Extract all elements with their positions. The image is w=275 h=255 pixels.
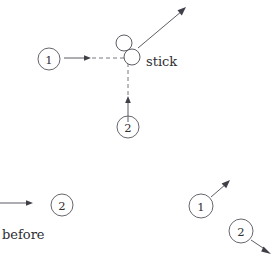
before-ball-two-group: 2 (117, 60, 139, 138)
before-ball-one-velocity-arrowhead (84, 55, 91, 61)
stick-balls-group (116, 35, 140, 65)
stick-upper-ball (116, 35, 132, 51)
before-ball-two-velocity-arrowhead (125, 96, 131, 103)
stick-label: stick (146, 55, 177, 68)
before-caption: before (2, 228, 45, 241)
before-ball-two-label: 2 (124, 121, 131, 135)
collision-diagram-figure: 1 2 2 (0, 0, 275, 255)
after-ball-one-velocity-shaft (211, 184, 226, 197)
stick-outgoing-arrow-shaft (138, 11, 182, 48)
after-ball-one-group: 1 (189, 180, 230, 218)
after-ball-two-label: 2 (237, 225, 244, 239)
diagram-canvas: 1 2 2 (0, 0, 275, 255)
stick-outgoing-arrow-group (138, 7, 186, 48)
after-ball-one-label: 1 (197, 200, 204, 214)
after-ball-two-group: 2 (229, 219, 271, 254)
before-edge-arrow-group (0, 200, 33, 206)
before-ball-one-group: 1 (38, 48, 128, 70)
before-edge-arrow-head (26, 200, 33, 206)
stick-lower-ball (124, 49, 140, 65)
before-lower-ball-two-label: 2 (58, 199, 65, 213)
before-ball-one-label: 1 (45, 53, 52, 67)
before-lower-ball-two-group: 2 (51, 194, 73, 216)
